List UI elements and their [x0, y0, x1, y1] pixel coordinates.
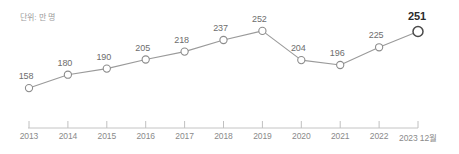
line-chart: 단위: 만 명 15818019020521823725220419622525…	[0, 0, 459, 154]
x-axis-tick-label: 2017	[175, 131, 194, 141]
x-axis-tick-label: 2015	[98, 131, 117, 141]
x-axis-tick-label: 2016	[136, 131, 155, 141]
data-point-value-label: 190	[96, 52, 111, 62]
x-axis-tick-label: 2019	[253, 131, 272, 141]
x-axis-tick-label: 2021	[331, 131, 350, 141]
x-axis-tick-label: 2023 12월	[399, 131, 437, 143]
data-point-value-label: 205	[135, 43, 150, 53]
data-point-marker	[298, 57, 305, 64]
x-axis-ticks	[29, 121, 418, 128]
x-axis-tick-label: 2014	[59, 131, 78, 141]
data-point-value-label: 196	[330, 48, 345, 58]
data-point-marker	[181, 48, 188, 55]
data-point-value-label: 158	[19, 71, 34, 81]
data-point-marker	[142, 56, 149, 63]
x-axis-tick-label: 2022	[370, 131, 389, 141]
series-markers	[25, 27, 423, 92]
data-point-value-label: 225	[369, 30, 384, 40]
x-axis-tick-label: 2020	[292, 131, 311, 141]
data-point-value-label: 204	[291, 43, 306, 53]
x-axis-tick-label: 2018	[214, 131, 233, 141]
data-point-value-label: 251	[408, 10, 426, 22]
data-point-marker	[376, 44, 383, 51]
data-point-value-label: 180	[58, 58, 73, 68]
x-axis-tick-label: 2013	[20, 131, 39, 141]
data-point-marker	[337, 61, 344, 68]
data-point-marker	[413, 27, 423, 37]
data-point-value-label: 237	[213, 23, 228, 33]
data-point-value-label: 252	[252, 14, 267, 24]
data-point-marker	[103, 65, 110, 72]
data-point-marker	[25, 85, 32, 92]
x-axis	[28, 121, 418, 128]
data-point-marker	[259, 27, 266, 34]
data-point-marker	[64, 71, 71, 78]
data-point-value-label: 218	[174, 35, 189, 45]
data-point-marker	[220, 36, 227, 43]
